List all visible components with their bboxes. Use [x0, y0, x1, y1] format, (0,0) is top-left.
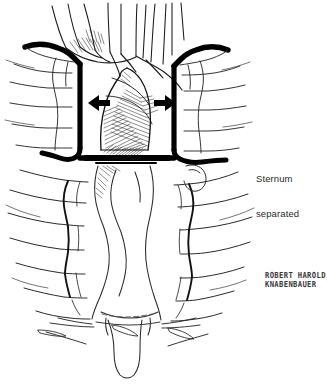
sternum-label-line-2: separated: [256, 208, 299, 220]
sternum-label-line-1: Sternum: [256, 173, 299, 185]
artist-signature-line-2: KNABENBAUER: [265, 279, 316, 289]
illustration-canvas: Sternum separated ROBERT HAROLD KNABENBA…: [0, 0, 327, 386]
sternum-separated-label: Sternum separated: [256, 150, 299, 242]
